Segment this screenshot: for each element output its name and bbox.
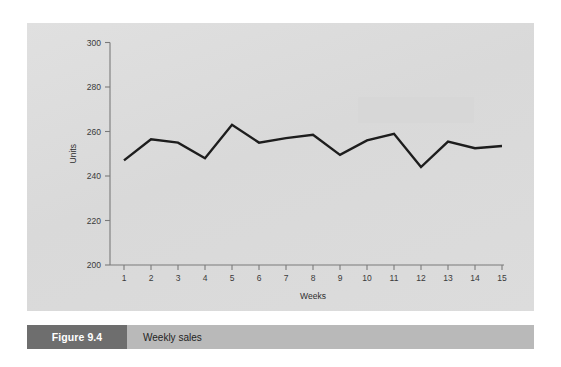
x-tick-label: 1 (122, 273, 127, 283)
line-chart: 200220240260280300123456789101112131415W… (27, 23, 534, 311)
y-tick-label: 200 (87, 260, 101, 270)
y-tick-label: 280 (87, 82, 101, 92)
x-tick-label: 8 (311, 273, 316, 283)
y-axis-title: Units (68, 144, 78, 163)
chart-panel: 200220240260280300123456789101112131415W… (27, 23, 534, 311)
figure-number: Figure 9.4 (27, 325, 127, 349)
figure-container: 200220240260280300123456789101112131415W… (0, 0, 561, 367)
x-tick-label: 6 (257, 273, 262, 283)
x-tick-label: 15 (497, 273, 507, 283)
x-tick-label: 4 (203, 273, 208, 283)
x-tick-label: 5 (230, 273, 235, 283)
x-tick-label: 7 (284, 273, 289, 283)
x-tick-label: 14 (470, 273, 480, 283)
x-tick-label: 10 (362, 273, 372, 283)
x-axis-title: Weeks (300, 291, 326, 301)
x-tick-label: 3 (176, 273, 181, 283)
data-series-line (124, 125, 502, 167)
x-tick-label: 2 (149, 273, 154, 283)
figure-caption-bar: Figure 9.4 Weekly sales (27, 325, 534, 349)
y-tick-label: 260 (87, 127, 101, 137)
x-tick-label: 13 (443, 273, 453, 283)
y-tick-label: 220 (87, 216, 101, 226)
y-tick-label: 300 (87, 38, 101, 48)
y-tick-label: 240 (87, 171, 101, 181)
x-tick-label: 11 (390, 273, 399, 283)
x-tick-label: 9 (338, 273, 343, 283)
x-tick-label: 12 (416, 273, 426, 283)
figure-caption: Weekly sales (127, 325, 534, 349)
